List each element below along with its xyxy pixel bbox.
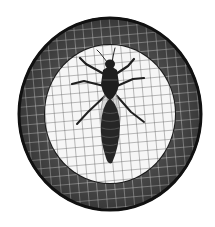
mosquito-emblem [0,0,215,227]
